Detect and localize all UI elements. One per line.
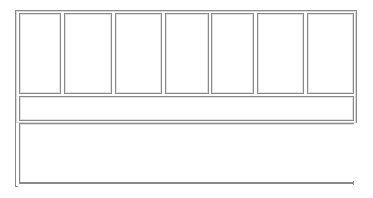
- column-panel-6[interactable]: [257, 13, 304, 94]
- column-panel-7[interactable]: [307, 13, 354, 94]
- column-panel-5[interactable]: [211, 13, 254, 94]
- middle-bar-panel[interactable]: [19, 96, 354, 121]
- column-panel-1[interactable]: [19, 13, 61, 94]
- column-panel-4[interactable]: [165, 13, 209, 94]
- column-panel-2[interactable]: [64, 13, 112, 94]
- outer-frame-left-rail: [15, 120, 18, 187]
- column-panel-3[interactable]: [115, 13, 162, 94]
- bottom-content-panel[interactable]: [19, 123, 354, 184]
- bottom-panel-endcap: [353, 181, 354, 185]
